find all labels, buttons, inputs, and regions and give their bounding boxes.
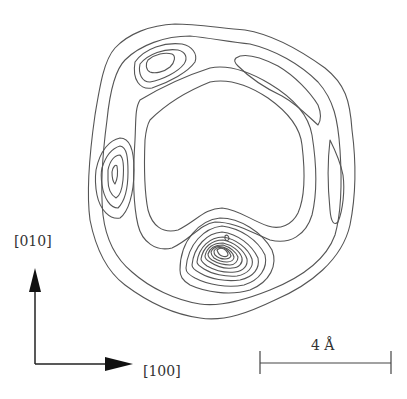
top-right-peak-contour bbox=[235, 56, 321, 125]
central-peak-contours bbox=[180, 218, 274, 293]
contour-figure: [010] [100] 4 Å bbox=[0, 0, 407, 399]
up-arrow-icon bbox=[29, 268, 41, 292]
right-arrow-icon bbox=[105, 357, 133, 371]
scale-bar-label: 4 Å bbox=[311, 338, 334, 352]
contour-plot bbox=[0, 0, 407, 399]
cavity-contour-inner bbox=[144, 81, 304, 231]
horizontal-axis-label: [100] bbox=[143, 364, 181, 378]
left-peak-contour-3 bbox=[108, 155, 124, 198]
left-peak-contour-4 bbox=[112, 165, 117, 184]
axis-arrows bbox=[29, 268, 133, 371]
left-peak-contour-2 bbox=[101, 146, 128, 208]
top-left-peak-contour-3 bbox=[146, 53, 174, 73]
scale-bar bbox=[260, 351, 391, 374]
vertical-axis-label: [010] bbox=[14, 234, 52, 248]
cavity-contour-outer bbox=[133, 67, 315, 249]
